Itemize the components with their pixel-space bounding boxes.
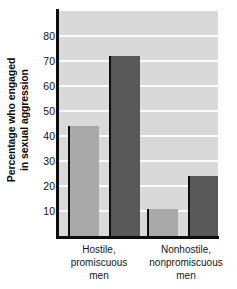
y-tick-label: 10 (35, 206, 55, 217)
x-category-label-line3: men (132, 269, 237, 282)
x-category-label-line2: nonpromiscuous (132, 256, 237, 269)
x-category-label: Nonhostile,nonpromiscuousmen (132, 243, 237, 282)
y-tick-label: 80 (35, 31, 55, 42)
y-tick-label: 30 (35, 156, 55, 167)
x-axis-category-labels: Hostile,promiscuousmenNonhostile,nonprom… (59, 243, 218, 289)
bar (147, 209, 178, 237)
plot-area (59, 11, 218, 236)
x-axis-line (56, 236, 219, 239)
y-axis-title-text: Percentage who engaged in sexual aggress… (5, 58, 31, 182)
y-tick-label: 20 (35, 181, 55, 192)
y-tick-label: 40 (35, 131, 55, 142)
y-axis-title-line1: Percentage who engaged (5, 58, 18, 182)
y-axis-tick-labels: 8070605040302010 (34, 0, 55, 245)
x-category-label-line1: Nonhostile, (132, 243, 237, 256)
y-tick-label: 70 (35, 56, 55, 67)
bar (188, 176, 218, 236)
y-axis-title-line2: in sexual aggression (18, 58, 31, 182)
y-tick-label: 60 (35, 81, 55, 92)
y-tick-label: 50 (35, 106, 55, 117)
y-axis-title: Percentage who engaged in sexual aggress… (0, 0, 36, 240)
bar-chart-figure: Percentage who engaged in sexual aggress… (0, 0, 237, 289)
gridline (59, 35, 218, 37)
bar (109, 56, 140, 236)
bar (68, 126, 99, 236)
y-axis-line (56, 9, 59, 238)
